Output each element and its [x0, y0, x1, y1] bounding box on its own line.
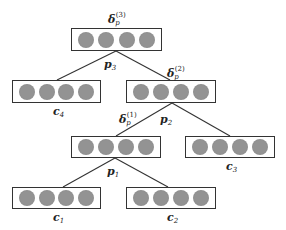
neuron-unit — [133, 84, 149, 100]
neuron-unit — [173, 190, 189, 206]
label-p2: p2 — [160, 114, 172, 127]
neuron-unit — [153, 190, 169, 206]
neuron-unit — [19, 84, 35, 100]
neuron-unit — [19, 190, 35, 206]
neuron-unit — [133, 190, 149, 206]
neuron-unit — [58, 190, 74, 206]
neuron-unit — [98, 139, 114, 155]
neuron-unit — [192, 139, 208, 155]
neuron-unit — [173, 84, 189, 100]
label-c3: c3 — [226, 161, 237, 174]
label-p3: p3 — [104, 59, 116, 72]
neuron-unit — [78, 32, 94, 48]
neuron-unit — [39, 84, 55, 100]
neuron-unit — [118, 139, 134, 155]
node-p1 — [71, 136, 161, 158]
node-c1 — [12, 187, 101, 209]
node-c4 — [12, 80, 101, 103]
neuron-unit — [138, 139, 154, 155]
neuron-unit — [212, 139, 228, 155]
label-delta-1: δp(1) — [119, 112, 137, 127]
label-p1: p1 — [107, 166, 119, 179]
edge-root-n2 — [116, 51, 170, 80]
neuron-unit — [193, 190, 209, 206]
node-c2 — [126, 187, 216, 209]
node-c3 — [185, 136, 275, 158]
neuron-unit — [232, 139, 248, 155]
neuron-unit — [78, 190, 94, 206]
label-c4: c4 — [53, 106, 64, 119]
neuron-unit — [98, 32, 114, 48]
label-c1: c1 — [53, 212, 64, 225]
label-delta-2: δp(2) — [167, 66, 185, 81]
neuron-unit — [193, 84, 209, 100]
neuron-unit — [252, 139, 268, 155]
neuron-unit — [78, 139, 94, 155]
edge-n1-c2 — [115, 158, 168, 187]
neuron-unit — [139, 32, 155, 48]
neuron-unit — [153, 84, 169, 100]
neuron-unit — [39, 190, 55, 206]
node-p2 — [126, 80, 216, 103]
node-root — [71, 28, 162, 51]
neuron-unit — [119, 32, 135, 48]
neuron-unit — [58, 84, 74, 100]
label-c2: c2 — [167, 212, 178, 225]
label-delta-3: δp(3) — [108, 12, 126, 27]
neuron-unit — [78, 84, 94, 100]
edge-n2-c3 — [172, 103, 230, 136]
